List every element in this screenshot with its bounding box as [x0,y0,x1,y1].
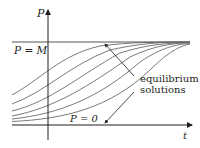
t-axis-label: t [183,130,188,141]
upper-equilibrium-label: P = M [13,44,48,56]
logistic-diagram: P t P = M P = 0 equilibrium solutions [0,0,200,148]
lower-equilibrium-label: P = 0 [69,113,98,124]
annotation-text-line1: equilibrium [140,73,199,84]
p-axis-label: P [36,7,45,20]
annotation-arrow-lower [105,92,134,123]
annotation-text-line2: solutions [140,84,186,95]
